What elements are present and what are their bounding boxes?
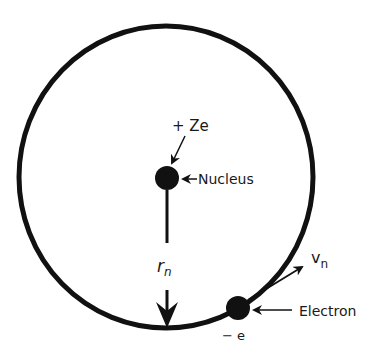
electron	[226, 296, 250, 320]
nucleus-charge-label: + Ze	[172, 117, 209, 135]
radius-label: rn	[157, 256, 172, 279]
radius-label-sub: n	[164, 265, 172, 279]
nucleus-label: Nucleus	[198, 171, 254, 187]
charge-pointer-arrow	[172, 136, 185, 163]
electron-label: Electron	[299, 303, 356, 319]
nucleus	[155, 166, 179, 190]
electron-charge-label: − e	[222, 328, 245, 343]
velocity-arrow	[248, 267, 302, 300]
bohr-atom-diagram: + Ze Nucleus rn vn Electron − e	[0, 0, 379, 352]
velocity-label-sub: n	[320, 257, 328, 271]
velocity-label: vn	[311, 248, 328, 271]
velocity-label-main: v	[311, 248, 320, 267]
